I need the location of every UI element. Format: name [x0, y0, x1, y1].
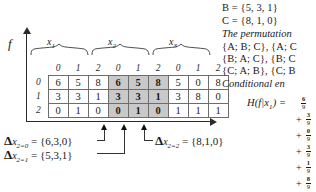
entropy-term-operator-3: +	[296, 146, 302, 157]
permutation-line-1: {B; A; C}, {B; C	[222, 53, 296, 64]
leader-line-dx1-horz	[97, 153, 125, 154]
figure-canvas: f x x1 x2 x3 012012012065865850813313313…	[0, 0, 316, 192]
data-table-container: 012012012065865850813313313802010010111	[29, 62, 229, 118]
table-cell-r2-c1[interactable]: 1	[68, 104, 88, 118]
table-cell-r0-c3[interactable]: 6	[108, 76, 128, 90]
row-header-2: 2	[29, 104, 48, 118]
table-cell-r1-c3[interactable]: 3	[108, 90, 128, 104]
table-cell-r1-c0[interactable]: 3	[48, 90, 68, 104]
entropy-term-operator-2: +	[296, 130, 302, 141]
leader-line-dx2-horz	[144, 140, 153, 141]
delta-set-2: {8,1,0}	[191, 135, 224, 147]
column-header-6: 0	[168, 62, 188, 76]
set-c-text: C = {8, 1, 0}	[222, 15, 278, 26]
x-axis-line	[26, 121, 212, 122]
table-row: 0658658508	[29, 76, 228, 90]
column-header-1: 1	[68, 62, 88, 76]
column-header-2: 2	[88, 62, 108, 76]
y-axis-line	[26, 33, 27, 122]
entropy-term-0: 69	[296, 93, 311, 109]
y-axis-arrow-icon	[23, 27, 31, 34]
fraction-denominator-5: 9	[306, 184, 311, 191]
entropy-term-operator-1: +	[296, 114, 302, 125]
table-cell-r2-c4[interactable]: 1	[128, 104, 148, 118]
table-cell-r2-c0[interactable]: 0	[48, 104, 68, 118]
delta-set-1: {5,3,1}	[40, 149, 73, 161]
entropy-term-fraction-5: 89	[306, 176, 311, 191]
table-cell-r1-c4[interactable]: 3	[128, 90, 148, 104]
table-cell-r2-c7[interactable]: 1	[188, 104, 208, 118]
column-header-5: 2	[148, 62, 168, 76]
annotation-delta-x2-2: Δx2=2 = {8,1,0}	[155, 133, 224, 150]
delta-eq-0: =	[31, 135, 37, 147]
row-header-1: 1	[29, 90, 48, 104]
entropy-term-3: + 39	[296, 141, 311, 157]
delta-sub-1: 2=1	[17, 156, 29, 164]
entropy-terms-list: 69+ 39+ 09+ 39+ 19+ 89	[296, 93, 311, 189]
permutation-intro-text: The permutation	[222, 28, 292, 39]
table-cell-r0-c5[interactable]: 8	[148, 76, 168, 90]
table-row: 1331331380	[29, 90, 228, 104]
table-cell-r1-c7[interactable]: 8	[188, 90, 208, 104]
delta-symbol-1: Δ	[4, 147, 12, 162]
table-cell-r1-c5[interactable]: 1	[148, 90, 168, 104]
table-cell-r2-c3[interactable]: 0	[108, 104, 128, 118]
delta-sub-2: 2=2	[168, 142, 180, 150]
delta-eq-2: =	[182, 135, 188, 147]
table-cell-r0-c1[interactable]: 5	[68, 76, 88, 90]
leader-line-dx0-horz	[97, 140, 105, 141]
entropy-term-operator-4: +	[296, 162, 302, 173]
table-cell-r2-c2[interactable]: 0	[88, 104, 108, 118]
table-cell-r0-c0[interactable]: 6	[48, 76, 68, 90]
brace-x1-icon	[30, 43, 90, 56]
brace-x3-icon	[152, 43, 212, 56]
leader-line-dx1-vert	[124, 130, 125, 154]
row-header-0: 0	[29, 76, 48, 90]
annotation-delta-x2-1: Δx2=1 = {5,3,1}	[4, 147, 73, 164]
table-cell-r0-c7[interactable]: 0	[188, 76, 208, 90]
entropy-term-operator-5: +	[296, 178, 302, 189]
entropy-term-5: + 89	[296, 173, 311, 189]
entropy-term-1: + 39	[296, 109, 311, 125]
entropy-label-end: ) =	[273, 97, 287, 108]
conditional-entropy-label: Conditional en	[222, 78, 285, 89]
table-row: 2010010111	[29, 104, 228, 118]
table-cell-r1-c6[interactable]: 3	[168, 90, 188, 104]
table-cell-r2-c6[interactable]: 1	[168, 104, 188, 118]
entropy-expression: H(f|x1) =	[247, 97, 286, 111]
entropy-term-2: + 09	[296, 125, 311, 141]
table-cell-r0-c2[interactable]: 8	[88, 76, 108, 90]
data-table: 012012012065865850813313313802010010111	[29, 62, 229, 118]
delta-symbol-0: Δ	[4, 133, 12, 148]
column-header-0: 0	[48, 62, 68, 76]
column-header-7: 1	[188, 62, 208, 76]
delta-eq-1: =	[31, 149, 37, 161]
y-axis-label: f	[8, 36, 12, 52]
table-cell-r2-c8[interactable]: 1	[208, 104, 228, 118]
brace-x2-icon	[91, 43, 151, 56]
table-corner-cell	[29, 62, 48, 76]
permutation-line-2: {C; A; B}, {C; B	[222, 65, 296, 76]
entropy-label: H(f|x	[247, 97, 269, 108]
table-header-row: 012012012	[29, 62, 228, 76]
column-header-4: 1	[128, 62, 148, 76]
table-cell-r1-c2[interactable]: 1	[88, 90, 108, 104]
table-cell-r0-c4[interactable]: 5	[128, 76, 148, 90]
table-cell-r2-c5[interactable]: 0	[148, 104, 168, 118]
table-cell-r1-c8[interactable]: 0	[208, 90, 228, 104]
set-b-text: B = {5, 3, 1}	[222, 2, 278, 13]
delta-symbol-2: Δ	[155, 133, 163, 148]
permutation-line-0: {A; B; C}, {A; C	[222, 41, 297, 52]
table-cell-r1-c1[interactable]: 3	[68, 90, 88, 104]
table-cell-r0-c6[interactable]: 5	[168, 76, 188, 90]
entropy-term-4: + 19	[296, 157, 311, 173]
column-header-3: 0	[108, 62, 128, 76]
x-axis-arrow-icon	[210, 118, 217, 126]
delta-set-0: {6,3,0}	[40, 135, 73, 147]
